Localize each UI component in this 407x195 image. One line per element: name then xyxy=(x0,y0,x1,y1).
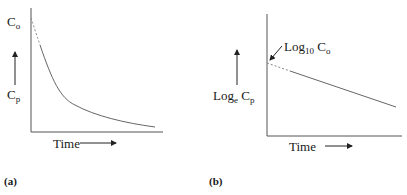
panel-a-y-axis-label: Cp xyxy=(7,88,20,104)
panel-a-plot xyxy=(15,8,163,143)
panel-a-caption: (a) xyxy=(4,175,17,187)
diagram-canvas xyxy=(0,0,407,195)
panel-b-y-axis-label: Loge Cp xyxy=(213,89,254,105)
panel-b-x-axis-label: Time xyxy=(289,140,316,153)
panel-a-decay-curve xyxy=(40,45,155,127)
panel-a-dashed-extrapolation xyxy=(31,18,40,45)
panel-b-dashed-segment xyxy=(267,63,290,71)
panel-a-x-axis-label: Time xyxy=(53,137,80,150)
panel-b-log-line xyxy=(290,71,396,107)
panel-a-c0-label: Co xyxy=(7,15,20,31)
panel-b-annotation-label: Log10 Co xyxy=(284,40,330,56)
panel-b-plot xyxy=(237,14,402,146)
panel-b-annotation-arrow-icon xyxy=(270,46,282,60)
panel-b-caption: (b) xyxy=(209,175,222,187)
